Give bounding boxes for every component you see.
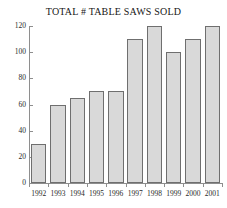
x-tick-mark xyxy=(203,183,204,187)
x-tick-label: 1993 xyxy=(48,190,67,198)
bar xyxy=(205,26,220,183)
bar xyxy=(127,39,142,183)
bar xyxy=(108,91,123,183)
x-tick-label: 1998 xyxy=(145,190,164,198)
bar xyxy=(31,144,46,183)
y-tick-label: 40 xyxy=(0,127,26,135)
bar xyxy=(147,26,162,183)
bar xyxy=(166,52,181,183)
x-tick-label: 1999 xyxy=(164,190,183,198)
bar xyxy=(50,105,65,184)
y-tick-label: 100 xyxy=(0,48,26,56)
chart-screenshot: TOTAL # TABLE SAWS SOLD 020406080100120 … xyxy=(0,0,227,208)
y-tick-label: 80 xyxy=(0,74,26,82)
bar xyxy=(89,91,104,183)
x-tick-mark xyxy=(222,183,223,187)
x-tick-mark xyxy=(126,183,127,187)
x-tick-mark xyxy=(68,183,69,187)
bar-series xyxy=(29,26,222,183)
x-tick-mark xyxy=(183,183,184,187)
y-tick-label: 60 xyxy=(0,101,26,109)
x-tick-label: 1995 xyxy=(87,190,106,198)
x-tick-mark xyxy=(106,183,107,187)
bar xyxy=(70,98,85,183)
bar xyxy=(185,39,200,183)
x-tick-label: 1994 xyxy=(68,190,87,198)
y-tick-label: 0 xyxy=(0,179,26,187)
x-tick-label: 1992 xyxy=(29,190,48,198)
chart-title: TOTAL # TABLE SAWS SOLD xyxy=(0,6,227,17)
x-tick-label: 2001 xyxy=(203,190,222,198)
x-tick-mark xyxy=(145,183,146,187)
x-tick-mark xyxy=(87,183,88,187)
x-tick-label: 2000 xyxy=(183,190,202,198)
x-tick-mark xyxy=(164,183,165,187)
y-tick-label: 20 xyxy=(0,153,26,161)
x-tick-mark xyxy=(29,183,30,187)
x-tick-label: 1996 xyxy=(106,190,125,198)
y-tick-label: 120 xyxy=(0,22,26,30)
x-tick-label: 1997 xyxy=(126,190,145,198)
x-tick-mark xyxy=(48,183,49,187)
